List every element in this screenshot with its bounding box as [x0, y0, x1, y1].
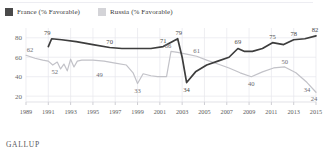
data-label-france-79: 79	[44, 29, 51, 36]
legend-label-france: France (% Favorable)	[17, 8, 80, 16]
chart-page: France (% Favorable) Russia (% Favorable…	[0, 0, 323, 158]
x-axis-tick-label-2011: 2011	[265, 108, 277, 115]
plot-area: 2040608019891991199319951997199920012003…	[0, 22, 323, 126]
data-label-france-75: 75	[269, 33, 276, 40]
x-axis-tick-label-1997: 1997	[109, 108, 121, 115]
data-label-russia-34: 34	[304, 86, 311, 93]
y-axis-tick-label-80: 80	[15, 34, 23, 42]
data-label-russia-49: 49	[96, 71, 103, 78]
x-axis-tick-label-2015: 2015	[310, 108, 322, 115]
x-axis-tick-label-2009: 2009	[243, 108, 255, 115]
data-label-russia-50: 50	[281, 58, 288, 65]
data-label-france-79: 79	[175, 29, 182, 36]
data-label-france-82: 82	[312, 26, 319, 33]
top-divider	[10, 2, 313, 3]
y-axis-tick-label-20: 20	[15, 93, 23, 101]
data-label-russia-52: 52	[51, 68, 58, 75]
legend-item-russia: Russia (% Favorable)	[98, 8, 173, 16]
data-label-france-70: 70	[106, 38, 113, 45]
data-label-russia-40: 40	[248, 80, 255, 87]
chart-legend: France (% Favorable) Russia (% Favorable…	[5, 6, 191, 18]
x-axis-tick-label-1989: 1989	[20, 108, 32, 115]
x-axis-tick-label-1995: 1995	[87, 108, 99, 115]
data-label-russia-24: 24	[311, 95, 318, 102]
x-axis-tick-label-1999: 1999	[131, 108, 143, 115]
y-axis-tick-label-40: 40	[15, 73, 23, 81]
x-axis-tick-label-2005: 2005	[198, 108, 210, 115]
y-axis-tick-label-60: 60	[15, 54, 23, 62]
data-label-russia-66: 66	[165, 42, 172, 49]
legend-item-france: France (% Favorable)	[5, 8, 80, 16]
legend-swatch-russia-icon	[98, 8, 106, 16]
data-label-france-34: 34	[183, 86, 190, 93]
data-label-russia-62: 62	[27, 46, 34, 53]
data-label-russia-33: 33	[134, 87, 141, 94]
legend-label-russia: Russia (% Favorable)	[110, 8, 173, 16]
x-axis-tick-label-2007: 2007	[221, 108, 233, 115]
data-label-france-78: 78	[290, 30, 297, 37]
x-axis-tick-label-1993: 1993	[64, 108, 76, 115]
source-attribution: GALLUP	[6, 140, 40, 149]
x-axis-tick-label-2001: 2001	[154, 108, 166, 115]
x-axis-tick-label-2003: 2003	[176, 108, 188, 115]
data-label-russia-61: 61	[193, 47, 200, 54]
x-axis-tick-label-2013: 2013	[288, 108, 300, 115]
line-chart: 2040608019891991199319951997199920012003…	[0, 22, 323, 126]
x-axis-tick-label-1991: 1991	[42, 108, 54, 115]
legend-swatch-france-icon	[5, 8, 13, 16]
data-label-france-69: 69	[235, 38, 242, 45]
